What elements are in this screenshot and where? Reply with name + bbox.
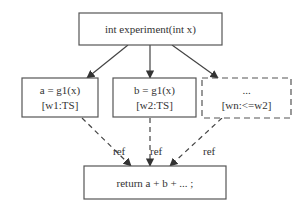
node-a-line2: [w1:TS]	[42, 99, 79, 111]
node-n-line2: [wn:<=w2]	[222, 99, 272, 111]
edge-n-to-ret	[170, 118, 222, 166]
edge-label-b-ref: ref	[150, 145, 163, 157]
node-b-line2: [w2:TS]	[136, 99, 173, 111]
node-a-line1: a = g1(x)	[40, 84, 81, 97]
node-b: b = g1(x) [w2:TS]	[113, 78, 196, 117]
node-n: ... [wn:<=w2]	[202, 78, 291, 118]
edge-root-to-a	[87, 45, 128, 78]
edge-label-a-ref: ref	[113, 145, 126, 157]
node-root: int experiment(int x)	[79, 13, 222, 45]
call-graph-diagram: ref ref ref int experiment(int x) a = g1…	[0, 0, 308, 213]
node-root-label: int experiment(int x)	[105, 23, 196, 36]
node-a: a = g1(x) [w1:TS]	[22, 78, 98, 117]
node-return: return a + b + ... ;	[84, 166, 226, 199]
node-return-label: return a + b + ... ;	[117, 177, 194, 189]
node-b-line1: b = g1(x)	[134, 84, 175, 97]
edge-a-to-ret	[82, 118, 131, 166]
edge-label-n-ref: ref	[203, 145, 216, 157]
node-n-line1: ...	[242, 84, 251, 96]
edge-root-to-n	[172, 45, 218, 78]
